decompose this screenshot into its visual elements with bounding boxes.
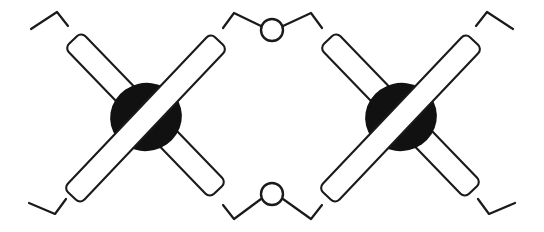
figure-canvas: Interlocking crossed-bar chain pattern xyxy=(0,0,544,232)
bottom-center-ring xyxy=(261,183,283,205)
top-center-ring xyxy=(261,19,283,41)
pattern-diagram-svg: Interlocking crossed-bar chain pattern xyxy=(0,0,544,232)
